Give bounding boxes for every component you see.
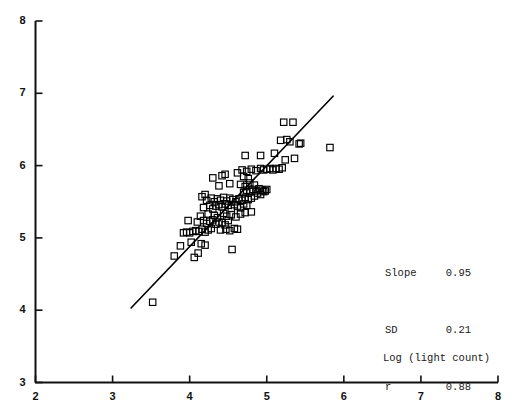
y-tick-label: 7: [6, 86, 26, 98]
stats-row-r: r0.88: [385, 378, 471, 397]
x-tick-label: 6: [334, 390, 354, 402]
x-tick-label: 8: [488, 390, 508, 402]
y-tick-label: 5: [6, 231, 26, 243]
stats-row-slope: Slope0.95: [385, 264, 471, 283]
stats-value-sd: 0.21: [437, 321, 471, 340]
x-tick-label: 5: [257, 390, 277, 402]
x-tick-label: 2: [26, 390, 46, 402]
x-tick-label: 4: [180, 390, 200, 402]
stats-value-r: 0.88: [437, 378, 471, 397]
stats-row-sd: SD0.21: [385, 321, 471, 340]
stats-label-slope: Slope: [385, 264, 437, 283]
y-tick-label: 4: [6, 303, 26, 315]
y-tick-label: 3: [6, 376, 26, 388]
stats-label-sd: SD: [385, 321, 437, 340]
x-axis-title: Log (light count): [383, 352, 490, 364]
y-tick-label: 6: [6, 159, 26, 171]
stats-label-r: r: [385, 378, 437, 397]
stats-value-slope: 0.95: [437, 264, 471, 283]
y-tick-label: 8: [6, 14, 26, 26]
statistics-annotation: Slope0.95 SD0.21 r0.88: [385, 226, 471, 416]
x-tick-label: 3: [103, 390, 123, 402]
